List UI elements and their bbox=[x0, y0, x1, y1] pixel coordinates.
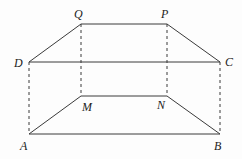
geometry-diagram: Q P D C M N A B bbox=[0, 0, 242, 159]
label-B: B bbox=[214, 139, 222, 153]
edge-DQ bbox=[29, 24, 81, 62]
label-C: C bbox=[225, 55, 234, 69]
label-D: D bbox=[13, 56, 23, 70]
label-M: M bbox=[81, 100, 93, 114]
label-Q: Q bbox=[74, 7, 83, 21]
label-P: P bbox=[160, 7, 169, 21]
edge-NB bbox=[167, 96, 220, 134]
edge-AM bbox=[29, 96, 81, 134]
label-A: A bbox=[19, 139, 28, 153]
edge-PC bbox=[167, 24, 220, 62]
label-N: N bbox=[156, 98, 166, 112]
